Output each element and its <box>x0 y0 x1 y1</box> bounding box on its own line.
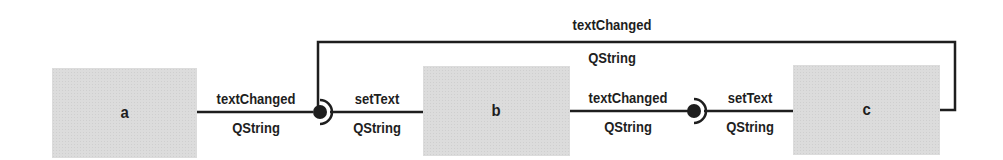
signal-ball-icon <box>687 104 701 118</box>
signal-type-label: QString <box>232 119 280 137</box>
signal-slot-diagram: a b c textChanged QString setText QStrin… <box>0 0 1003 160</box>
object-a-box: a <box>52 68 197 158</box>
object-c-box: c <box>793 65 940 155</box>
object-b-box: b <box>423 66 570 156</box>
signal-name-label: textChanged <box>589 89 668 107</box>
slot-name-label: setText <box>728 89 773 107</box>
signal-name-label: textChanged <box>217 90 296 108</box>
slot-type-label: QString <box>353 119 401 137</box>
signal-type-label: QString <box>588 49 636 67</box>
object-a-label: a <box>120 103 128 123</box>
signal-type-label: QString <box>604 118 652 136</box>
slot-name-label: setText <box>355 90 400 108</box>
signal-name-label: textChanged <box>573 16 652 34</box>
object-b-label: b <box>492 101 501 121</box>
object-c-label: c <box>862 100 870 120</box>
signal-ball-icon <box>313 105 327 119</box>
slot-type-label: QString <box>726 118 774 136</box>
